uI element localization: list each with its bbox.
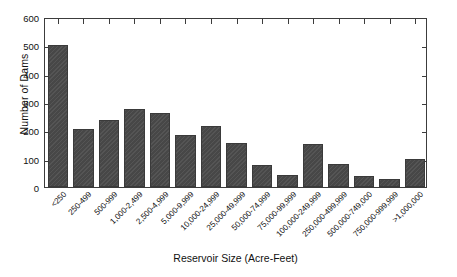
bar xyxy=(201,126,221,187)
bar-series xyxy=(45,19,426,187)
bar xyxy=(124,109,144,187)
y-tick-label: 200 xyxy=(2,126,42,137)
y-tick-label: 500 xyxy=(2,41,42,52)
y-axis-tick-labels: 0100200300400500600 xyxy=(0,0,42,277)
x-tick-label: 250-499 xyxy=(67,190,94,217)
y-tick-label: 300 xyxy=(2,98,42,109)
bar xyxy=(252,165,272,187)
x-axis-title: Reservoir Size (Acre-Feet) xyxy=(44,252,427,264)
bar xyxy=(328,164,348,187)
x-tick-label: 500,000-749,000 xyxy=(326,190,375,239)
y-tick-label: 600 xyxy=(2,13,42,24)
y-tick-label: 100 xyxy=(2,154,42,165)
bar xyxy=(99,120,119,187)
bar xyxy=(277,175,297,187)
x-tick-label: 100,000-249,999 xyxy=(275,190,324,239)
plot-area xyxy=(44,18,427,188)
bar xyxy=(175,135,195,187)
y-tick-label: 0 xyxy=(2,183,42,194)
bar-chart-figure: Number of Dams 0100200300400500600 <2502… xyxy=(0,0,457,277)
bar xyxy=(303,144,323,187)
y-tick-label: 400 xyxy=(2,69,42,80)
bar xyxy=(405,159,425,187)
bar xyxy=(226,143,246,187)
x-tick-label: <250 xyxy=(49,190,68,209)
bar xyxy=(354,176,374,187)
x-axis-tick-labels: <250250-499500-9991,000-2,4992,500-4,999… xyxy=(44,190,427,248)
bar xyxy=(379,179,399,187)
bar xyxy=(48,45,68,187)
bar xyxy=(150,113,170,187)
bar xyxy=(73,129,93,187)
